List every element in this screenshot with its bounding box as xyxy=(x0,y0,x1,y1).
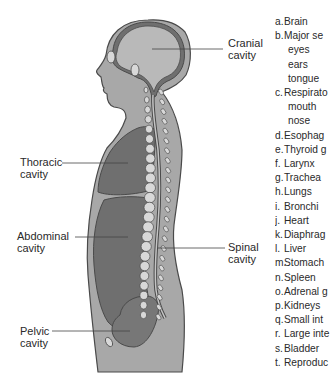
legend-letter: s. xyxy=(275,342,284,356)
legend-text: Esophag xyxy=(284,129,324,143)
legend-subitem: nose xyxy=(275,114,331,128)
thoracic-cavity-label: Thoracic cavity xyxy=(20,156,62,180)
vertebra xyxy=(140,251,150,261)
legend-item: c.Respirato xyxy=(275,86,331,100)
vertebra xyxy=(140,291,148,299)
legend-item: t.Reproduc xyxy=(275,356,331,370)
vertebra xyxy=(140,281,148,290)
legend-text: Reproduc xyxy=(284,356,328,370)
vertebra xyxy=(145,192,156,202)
cranial-cavity-label: Cranial cavity xyxy=(228,37,263,61)
legend-letter: l. xyxy=(275,242,284,256)
vertebra xyxy=(144,87,148,93)
legend-item: i.Bronchi xyxy=(275,200,331,214)
legend-text: Thyroid g xyxy=(284,143,326,157)
abdominal-label-line1: Abdominal xyxy=(17,230,69,242)
vertebra xyxy=(144,97,149,103)
abdominal-cavity-label: Abdominal cavity xyxy=(17,230,69,254)
vertebra xyxy=(145,106,151,113)
legend-text: Brain xyxy=(284,15,308,29)
legend-text: Lungs xyxy=(284,185,312,199)
vertebra xyxy=(142,232,153,242)
vertebra xyxy=(145,183,156,193)
legend-item: l.Liver xyxy=(275,242,331,256)
vertebra xyxy=(140,301,147,309)
legend-item: j.Heart xyxy=(275,214,331,228)
legend-item: f.Larynx xyxy=(275,157,331,171)
legend-text: Liver xyxy=(284,242,306,256)
vertebra xyxy=(144,202,155,212)
legend-text: Respirato xyxy=(284,86,328,100)
thoracic-label-line2: cavity xyxy=(20,168,62,180)
pelvic-label-line1: Pelvic xyxy=(20,325,49,337)
vertebra xyxy=(145,116,152,123)
legend-letter: k. xyxy=(275,228,284,242)
legend-letter: g. xyxy=(275,171,284,185)
ear-canal xyxy=(131,64,139,76)
legend-item: s.Bladder xyxy=(275,342,331,356)
legend-item: p.Kidneys xyxy=(275,299,331,313)
legend-letter: d. xyxy=(275,129,284,143)
legend-text: Kidneys xyxy=(284,299,320,313)
legend-text: Stomach xyxy=(284,256,324,270)
vertebra xyxy=(141,242,151,252)
legend-letter: f. xyxy=(275,157,284,171)
legend-text: Trachea xyxy=(284,171,321,185)
legend-subitem: tongue xyxy=(275,72,331,86)
legend-item: h.Lungs xyxy=(275,185,331,199)
legend-item: b.Major se xyxy=(275,29,331,43)
legend-text: Bronchi xyxy=(284,200,319,214)
vertebra xyxy=(143,212,154,222)
legend-letter: p. xyxy=(275,299,284,313)
legend-item: m.Stomach xyxy=(275,256,331,270)
vertebra xyxy=(145,173,155,183)
vertebra xyxy=(140,311,146,318)
vertebra xyxy=(143,222,154,232)
legend-letter: q. xyxy=(275,313,284,327)
spinal-label-line1: Spinal xyxy=(228,241,259,253)
vertebra xyxy=(140,261,149,270)
legend-subitem: eyes xyxy=(275,43,331,57)
legend-item: a.Brain xyxy=(275,15,331,29)
legend-text: Large inte xyxy=(284,327,329,341)
legend-text: Major se xyxy=(284,29,323,43)
legend-letter: b. xyxy=(275,29,284,43)
legend-letter: o. xyxy=(275,285,284,299)
vertebra xyxy=(140,271,149,280)
legend-letter: r. xyxy=(275,327,284,341)
abdominal-label-line2: cavity xyxy=(17,242,69,254)
legend-item: n.Spleen xyxy=(275,271,331,285)
vertebra xyxy=(146,135,154,144)
legend-text: Heart xyxy=(284,214,309,228)
legend-letter: m. xyxy=(275,256,284,270)
vertebra xyxy=(146,154,155,163)
pelvic-label-line2: cavity xyxy=(20,337,49,349)
vertebra xyxy=(146,144,155,153)
cranial-label-line1: Cranial xyxy=(228,37,263,49)
legend-letter: c. xyxy=(275,86,284,100)
legend-subitem: ears xyxy=(275,58,331,72)
legend-item: o.Adrenal g xyxy=(275,285,331,299)
legend-item: g.Trachea xyxy=(275,171,331,185)
legend-item: d.Esophag xyxy=(275,129,331,143)
spinal-cavity-label: Spinal cavity xyxy=(228,241,259,265)
legend-text: Small int xyxy=(284,313,323,327)
legend-letter: i. xyxy=(275,200,284,214)
legend-text: Larynx xyxy=(284,157,315,171)
vertebra xyxy=(146,163,156,173)
organ-legend: a.Brainb.Major seeyesearstonguec.Respira… xyxy=(275,15,331,370)
legend-letter: h. xyxy=(275,185,284,199)
legend-letter: j. xyxy=(275,214,284,228)
legend-letter: t. xyxy=(275,356,284,370)
legend-item: q.Small int xyxy=(275,313,331,327)
legend-item: e.Thyroid g xyxy=(275,143,331,157)
legend-letter: a. xyxy=(275,15,284,29)
legend-letter: n. xyxy=(275,271,284,285)
legend-text: Adrenal g xyxy=(284,285,328,299)
vertebra xyxy=(145,125,152,133)
legend-text: Bladder xyxy=(284,342,319,356)
legend-letter: e. xyxy=(275,143,284,157)
thoracic-label-line1: Thoracic xyxy=(20,156,62,168)
spinal-label-line2: cavity xyxy=(228,253,259,265)
legend-item: k.Diaphrag xyxy=(275,228,331,242)
